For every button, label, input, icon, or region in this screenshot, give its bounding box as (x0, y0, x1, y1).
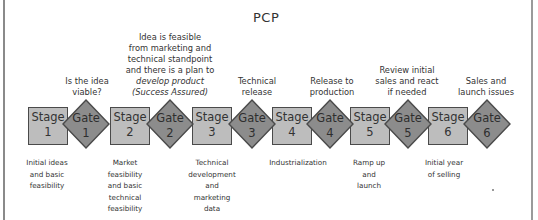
stage-6-description: Initial year of selling (425, 157, 463, 180)
gate-2-diamond: Gate2 (146, 99, 194, 149)
diagram-title: PCP (253, 10, 279, 25)
stage-1-description: Initial ideas and basic feasibility (26, 157, 67, 192)
gate-1-question: Is the idea viable? (65, 76, 108, 98)
stage-6-box: Stage 6 (428, 107, 468, 145)
gate-4-diamond: Gate4 (306, 99, 354, 149)
stage-5-description: Ramp up and launch (353, 157, 385, 192)
stage-3-description: Technical development and marketing data (188, 157, 235, 215)
stage-3-box: Stage 3 (192, 107, 232, 145)
stray-mark (492, 189, 494, 191)
gate-4-question: Release to production (310, 76, 355, 98)
gate-5-diamond: Gate5 (384, 99, 432, 149)
stage-2-box: Stage 2 (110, 107, 150, 145)
gate-2-question: Idea is feasible from marketing and tech… (126, 32, 215, 98)
stage-2-description: Market feasibility and basic technical f… (108, 157, 143, 215)
gate-3-question: Technical release (238, 76, 276, 98)
gate-1-diamond: Gate1 (62, 99, 110, 149)
stage-4-description: Industrialization (269, 157, 327, 169)
gate-6-question: Sales and launch issues (458, 76, 514, 98)
gate-5-question: Review initial sales and react if needed (375, 65, 438, 98)
gate-6-diamond: Gate6 (463, 99, 511, 149)
gate-3-diamond: Gate3 (228, 99, 276, 149)
